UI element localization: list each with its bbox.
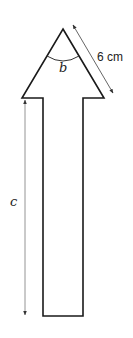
side-length-label: 6 cm	[97, 50, 123, 64]
angle-label-b: b	[59, 60, 67, 75]
shaft-length-label-c: c	[10, 194, 18, 209]
arrow-diagram: b 6 cm c	[0, 0, 133, 338]
